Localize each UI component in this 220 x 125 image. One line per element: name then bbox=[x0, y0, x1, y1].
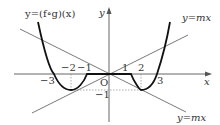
origin-label: O bbox=[100, 77, 108, 88]
x-tick-neg1: −1 bbox=[77, 62, 92, 73]
x-tick-2: 2 bbox=[138, 62, 144, 73]
y-tick-neg1: −1 bbox=[95, 89, 110, 100]
x-axis-label: x bbox=[204, 76, 210, 87]
x-tick-3: 3 bbox=[157, 75, 163, 86]
y-axis-arrow-icon bbox=[107, 7, 112, 14]
line-label-upper: y=mx bbox=[181, 12, 212, 23]
tangent-lines bbox=[20, 29, 188, 113]
x-tick-1: 1 bbox=[122, 62, 128, 73]
x-tick-neg3: −3 bbox=[40, 75, 55, 86]
function-graph: y=(f∘g)(x) y=mx y=mx x y O −3 −2 −1 1 2 … bbox=[0, 0, 220, 125]
x-tick-neg2: −2 bbox=[61, 62, 76, 73]
curve-label: y=(f∘g)(x) bbox=[24, 8, 75, 19]
axes bbox=[14, 7, 212, 122]
y-axis-label: y bbox=[98, 7, 105, 18]
line-label-lower: y=mx bbox=[176, 112, 207, 123]
